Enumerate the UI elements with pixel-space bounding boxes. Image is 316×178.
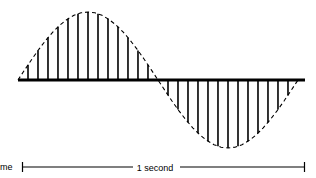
time-axis-label: me <box>0 162 13 172</box>
sine-wave-figure: me 1 second <box>0 0 316 178</box>
scale-bar-label: 1 second <box>137 163 174 173</box>
duration-scale-bar: 1 second <box>22 162 305 173</box>
waveform-diagram: me 1 second <box>0 0 316 178</box>
